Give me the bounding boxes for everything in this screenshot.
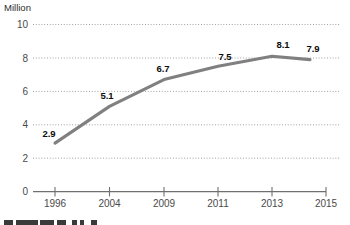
data-label-1996: 2.9: [42, 128, 55, 139]
x-tick-label-2015: 2015: [315, 198, 338, 209]
x-tick-label-2009: 2009: [153, 198, 176, 209]
y-tick-label-0: 0: [22, 186, 28, 197]
x-tick-label-2011: 2011: [207, 198, 229, 209]
x-tick-label-2004: 2004: [98, 198, 121, 209]
x-tick-label-2013: 2013: [261, 198, 284, 209]
data-label-2015: 7.9: [306, 43, 319, 54]
line-chart: 10 8 6 4 2 0 Million 1996 2004 2009 2011…: [0, 0, 350, 225]
data-label-2011: 7.5: [218, 51, 232, 62]
y-tick-label-8: 8: [22, 53, 28, 64]
x-axis: [33, 187, 326, 197]
y-tick-label-10: 10: [17, 19, 29, 30]
footer-cropped-text: [4, 220, 124, 225]
data-label-2013: 8.1: [276, 39, 290, 50]
data-label-2009: 6.7: [156, 63, 169, 74]
data-label-2004: 5.1: [100, 90, 114, 101]
series-line: [55, 56, 310, 143]
y-axis-unit-label: Million: [4, 2, 31, 13]
y-axis-tick-labels: 10 8 6 4 2 0: [17, 19, 29, 197]
x-axis-tick-labels: 1996 2004 2009 2011 2013 2015: [44, 198, 338, 209]
y-tick-label-6: 6: [22, 86, 28, 97]
x-tick-label-1996: 1996: [44, 198, 67, 209]
gridlines: [33, 25, 340, 159]
y-tick-label-4: 4: [22, 119, 28, 130]
chart-canvas: 10 8 6 4 2 0 Million 1996 2004 2009 2011…: [0, 0, 350, 225]
y-tick-label-2: 2: [22, 153, 28, 164]
